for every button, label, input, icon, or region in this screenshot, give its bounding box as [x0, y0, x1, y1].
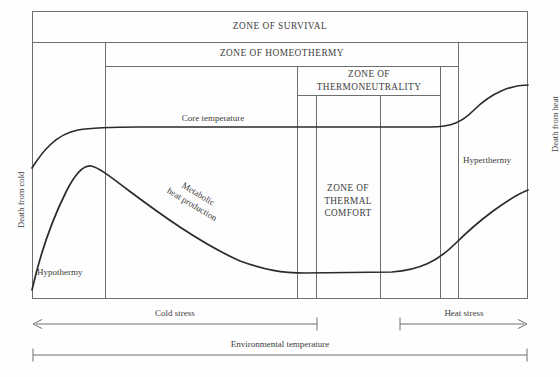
hypothermy-label: Hypothermy — [37, 267, 83, 277]
zone-thermoneutrality-line2: THERMONEUTRALITY — [317, 81, 422, 94]
heat-stress-label: Heat stress — [444, 308, 483, 318]
zone-thermoneutrality-label: ZONE OF THERMONEUTRALITY — [317, 68, 422, 93]
core-temperature-curve — [32, 85, 528, 168]
death-from-cold-label: Death from cold — [16, 172, 26, 228]
metabolic-heat-production-curve — [32, 166, 528, 290]
zone-thermal-comfort-line2: THERMAL — [324, 195, 372, 208]
zone-homeothermy-label: ZONE OF HOMEOTHERMY — [220, 48, 344, 58]
zone-survival-label: ZONE OF SURVIVAL — [233, 21, 327, 31]
zone-thermal-comfort-line1: ZONE OF — [324, 182, 372, 195]
zone-thermal-comfort-line3: COMFORT — [324, 207, 372, 220]
zone-thermoneutrality-line1: ZONE OF — [317, 68, 422, 81]
environmental-temperature-axis — [33, 349, 527, 362]
death-from-heat-label: Death from heat — [550, 96, 560, 152]
environmental-temperature-label: Environmental temperature — [231, 339, 330, 349]
hyperthermy-label: Hyperthermy — [463, 155, 511, 165]
heat-stress-axis — [400, 318, 527, 331]
thermoregulation-diagram: ZONE OF SURVIVAL ZONE OF HOMEOTHERMY ZON… — [0, 0, 560, 377]
zone-thermal-comfort-label: ZONE OF THERMAL COMFORT — [324, 182, 372, 220]
cold-stress-label: Cold stress — [155, 308, 195, 318]
core-temperature-label: Core temperature — [182, 113, 245, 123]
cold-stress-axis — [33, 318, 317, 331]
